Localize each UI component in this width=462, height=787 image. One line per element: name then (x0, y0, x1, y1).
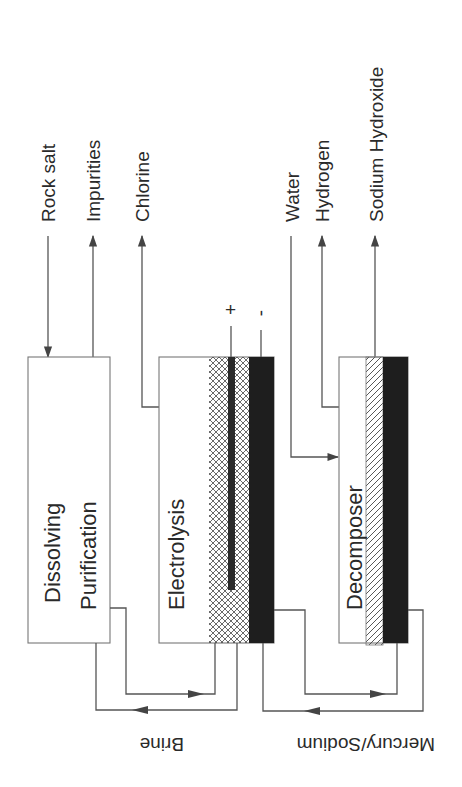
label-water: Water (282, 171, 303, 222)
label-purification: Purification (76, 501, 101, 610)
brine-return-arrow (132, 706, 148, 714)
label-rock-salt: Rock salt (38, 143, 59, 222)
label-impurities: Impurities (83, 140, 104, 222)
label-dissolving: Dissolving (40, 503, 65, 603)
plus-sign: + (225, 299, 236, 320)
hydrogen-pipe (322, 236, 339, 407)
chlorine-pipe (142, 236, 159, 407)
label-sodium-hydroxide: Sodium Hydroxide (366, 67, 387, 222)
anode (228, 357, 235, 590)
label-brine: Brine (140, 734, 184, 755)
label-electrolysis: Electrolysis (164, 499, 189, 610)
label-hydrogen: Hydrogen (312, 140, 333, 222)
water-pipe (291, 236, 338, 457)
mercury-cathode-layer (249, 357, 274, 643)
amalgam-layer (383, 357, 408, 643)
amalgam-feed-arrow (370, 690, 386, 698)
label-decomposer: Decomposer (342, 485, 367, 610)
label-mercury-sodium: Mercury/Sodium (297, 734, 435, 755)
brine-feed-arrow (188, 690, 204, 698)
brine-return-pipe (96, 643, 237, 710)
minus-sign: - (252, 310, 273, 316)
graphite-layer (366, 357, 383, 645)
mercury-return-arrow (304, 707, 320, 715)
label-chlorine: Chlorine (132, 151, 153, 222)
process-diagram: Rock salt Impurities Chlorine Water Hydr… (0, 0, 462, 787)
